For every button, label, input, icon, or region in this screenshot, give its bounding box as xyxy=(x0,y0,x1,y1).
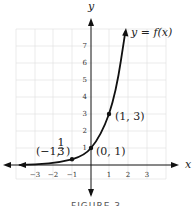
fraction-denominator: 3 xyxy=(58,145,65,158)
exponential-graph: x y −3 −2 −1 1 2 3 1 2 3 4 5 6 7 y xyxy=(0,0,192,206)
y-tick: 7 xyxy=(83,42,87,50)
x-axis-right-arrow-icon xyxy=(171,162,179,168)
y-axis-label: y xyxy=(87,0,95,13)
y-tick: 5 xyxy=(83,76,87,84)
point-label-0-1: (0, 1) xyxy=(96,145,126,158)
point-label-close: ) xyxy=(66,145,70,158)
point-label-1-3: (1, 3) xyxy=(115,110,145,123)
point-neg1-third xyxy=(70,157,74,161)
point-0-1 xyxy=(89,146,93,150)
x-axis-label: x xyxy=(185,158,192,171)
figure-caption: FIGURE 3 xyxy=(71,201,121,206)
y-tick: 6 xyxy=(83,59,88,67)
x-tick: −1 xyxy=(67,171,77,179)
y-tick: 3 xyxy=(83,110,87,118)
y-tick: 2 xyxy=(83,127,87,135)
x-tick: −3 xyxy=(30,171,40,179)
point-1-3 xyxy=(107,112,111,116)
curve-left-arrow-icon xyxy=(18,162,26,168)
x-tick: −2 xyxy=(48,171,58,179)
x-tick: 3 xyxy=(145,171,149,179)
y-tick-labels: 1 2 3 4 5 6 7 xyxy=(83,42,88,152)
y-axis-up-arrow-icon xyxy=(88,18,94,26)
y-axis-down-arrow-icon xyxy=(88,189,94,197)
x-tick-labels: −3 −2 −1 1 2 3 xyxy=(30,171,149,179)
y-tick: 4 xyxy=(83,93,88,101)
x-tick: 1 xyxy=(107,171,111,179)
x-axis-left-arrow-icon xyxy=(3,162,11,168)
y-axis: y xyxy=(87,0,95,197)
point-label-open: (−1, xyxy=(36,145,60,158)
function-label: y = f(x) xyxy=(130,26,172,39)
y-tick: 1 xyxy=(83,144,87,152)
x-tick: 2 xyxy=(126,171,130,179)
